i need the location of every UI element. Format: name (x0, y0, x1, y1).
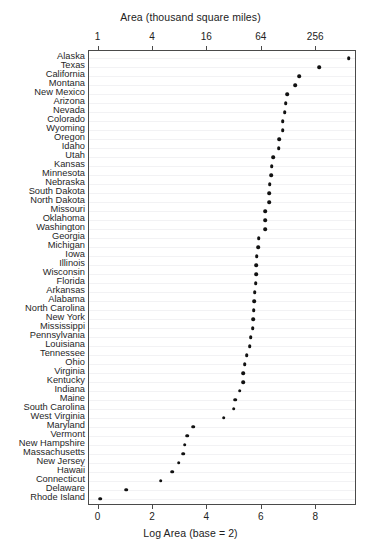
data-point (251, 317, 255, 321)
data-point (256, 245, 260, 249)
data-point (297, 74, 301, 78)
data-point (281, 119, 285, 123)
gridline (89, 193, 355, 194)
top-axis-tick-label: 16 (201, 31, 212, 42)
data-point (99, 497, 103, 501)
gridline (89, 256, 355, 257)
data-point (347, 56, 351, 60)
gridline (89, 229, 355, 230)
gridline (89, 445, 355, 446)
gridline (89, 67, 355, 68)
gridline (89, 238, 355, 239)
data-point (277, 137, 281, 141)
data-point (222, 416, 226, 420)
data-point (267, 200, 271, 204)
gridline (89, 85, 355, 86)
data-point (241, 380, 245, 384)
gridline (89, 265, 355, 266)
gridline (89, 283, 355, 284)
data-point (233, 398, 237, 402)
data-point (263, 209, 267, 213)
gridline (89, 175, 355, 176)
gridline (89, 490, 355, 491)
gridline (89, 310, 355, 311)
x-axis-tick-label: 2 (149, 511, 155, 522)
data-point (252, 308, 256, 312)
gridline (89, 328, 355, 329)
data-point (242, 371, 246, 375)
data-point (177, 461, 181, 465)
gridline (89, 166, 355, 167)
top-axis-tick-label: 4 (149, 31, 155, 42)
data-point (254, 281, 258, 285)
data-point (277, 146, 281, 150)
gridline (89, 463, 355, 464)
data-point (245, 353, 249, 357)
gridline (89, 301, 355, 302)
top-axis-tick-label: 1 (95, 31, 101, 42)
x-axis-tick-label: 6 (258, 511, 264, 522)
x-axis-title: Log Area (base = 2) (0, 527, 381, 539)
gridline (89, 94, 355, 95)
data-point (257, 236, 261, 240)
gridline (89, 391, 355, 392)
gridline (89, 130, 355, 131)
gridline (89, 202, 355, 203)
gridline (89, 337, 355, 338)
data-point (267, 191, 271, 195)
gridline (89, 319, 355, 320)
data-point (252, 299, 256, 303)
x-axis-tick (315, 505, 316, 509)
data-point (263, 218, 267, 222)
gridline (89, 355, 355, 356)
gridline (89, 499, 355, 500)
data-point (253, 290, 257, 294)
data-point (269, 173, 273, 177)
x-axis-tick (261, 505, 262, 509)
x-axis-tick-label: 4 (204, 511, 210, 522)
data-point (317, 65, 321, 69)
gridline (89, 481, 355, 482)
x-axis-tick-label: 0 (95, 511, 101, 522)
gridline (89, 472, 355, 473)
gridline (89, 292, 355, 293)
gridline (89, 184, 355, 185)
data-point (251, 326, 255, 330)
data-point (281, 128, 285, 132)
data-point (293, 83, 297, 87)
gridline (89, 220, 355, 221)
data-point (170, 470, 174, 474)
data-point (183, 443, 187, 447)
gridline (89, 373, 355, 374)
data-point (268, 182, 272, 186)
gridline (89, 112, 355, 113)
data-point (181, 452, 185, 456)
data-point (272, 155, 276, 159)
x-axis-tick (206, 505, 207, 509)
gridline (89, 76, 355, 77)
data-point (238, 389, 242, 393)
data-point (285, 92, 289, 96)
gridline (89, 148, 355, 149)
data-point (185, 434, 189, 438)
gridline (89, 103, 355, 104)
data-point (270, 164, 274, 168)
gridline (89, 364, 355, 365)
x-axis-tick (152, 505, 153, 509)
gridline (89, 346, 355, 347)
data-point (243, 362, 247, 366)
state-label-column: AlaskaTexasCaliforniaMontanaNew MexicoAr… (0, 50, 85, 505)
data-point (232, 407, 236, 411)
data-point (191, 425, 195, 429)
data-point (255, 263, 259, 267)
gridline (89, 409, 355, 410)
gridline (89, 436, 355, 437)
data-point (255, 254, 259, 258)
gridline (89, 139, 355, 140)
x-axis-tick (98, 505, 99, 509)
data-point (124, 488, 128, 492)
top-axis-tick-label: 64 (255, 31, 266, 42)
gridline (89, 58, 355, 59)
data-point (159, 479, 163, 483)
data-point (283, 110, 287, 114)
